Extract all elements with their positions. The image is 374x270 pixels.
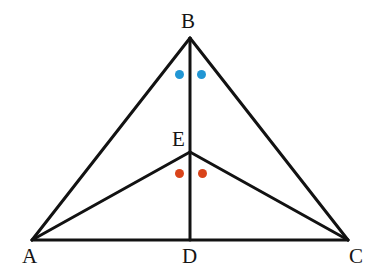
vertex-label-d: D	[182, 246, 197, 267]
segments-group	[32, 38, 348, 240]
angle-marker-dot-blue-left	[175, 70, 184, 79]
angle-marker-dot-blue-right	[197, 70, 206, 79]
segment-ae	[32, 152, 190, 240]
vertex-label-e: E	[172, 129, 185, 150]
figure-canvas	[0, 0, 374, 270]
vertex-label-a: A	[22, 246, 37, 267]
vertex-label-b: B	[181, 11, 195, 32]
vertex-label-c: C	[349, 246, 363, 267]
angle-marker-dot-red-right	[198, 169, 207, 178]
geometry-figure: A B C D E	[0, 0, 374, 270]
angle-marker-dot-red-left	[175, 169, 184, 178]
segment-bc	[190, 38, 348, 240]
segment-ec	[190, 152, 348, 240]
segment-ab	[32, 38, 190, 240]
